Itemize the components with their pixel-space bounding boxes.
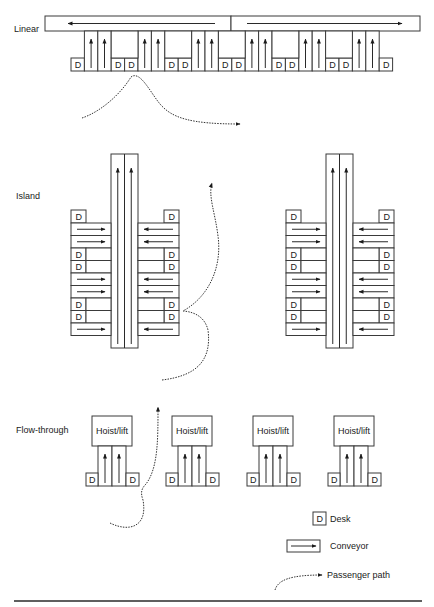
island-desk-left: D (71, 298, 86, 311)
hoist-lift-box: Hoist/lift (334, 416, 374, 446)
desk-label: D (169, 262, 176, 272)
island-desk-right: D (164, 298, 179, 311)
island-gap (86, 261, 111, 274)
linear-layout: DDDDDDDDDDDD (45, 16, 420, 71)
island-desk-left: D (71, 311, 86, 324)
island-desk-left: D (71, 248, 86, 261)
flow-desk-left: D (166, 473, 178, 486)
desk-label: D (169, 300, 176, 310)
linear-desk: D (285, 58, 298, 71)
legend-passenger-path-icon (275, 575, 322, 590)
island-desk-right: D (164, 210, 179, 223)
desk-label: D (75, 60, 82, 70)
desk-label: D (291, 250, 298, 260)
island-desk-right: D (164, 248, 179, 261)
linear-desk: D (379, 58, 392, 71)
desk-label: D (169, 312, 176, 322)
hoist-lift-label: Hoist/lift (96, 426, 129, 436)
island-desk-right: D (379, 261, 394, 274)
flow-desk-right: D (287, 473, 300, 486)
linear-desk: D (71, 58, 84, 71)
linear-desk: D (165, 58, 178, 71)
desk-label: D (236, 60, 243, 70)
island-gap (86, 298, 111, 311)
hoist-lift-box: Hoist/lift (172, 416, 212, 446)
island-gap (301, 248, 326, 261)
island-gap (353, 311, 379, 324)
island-desk-right: D (379, 248, 394, 261)
island-gap (301, 311, 326, 324)
desk-label: D (210, 475, 217, 485)
island-gap (138, 311, 164, 324)
airport-checkin-layout-diagram: Linear Island Flow-through DDDDDDDDDDDD … (0, 0, 434, 607)
desk-label: D (76, 212, 83, 222)
desk-label: D (372, 475, 379, 485)
linear-desk: D (339, 58, 352, 71)
flow-through-unit-3: Hoist/liftDD (247, 416, 300, 486)
island-gap (138, 298, 164, 311)
island-layout-1: DDDDDDDDDD (71, 154, 179, 348)
legend-passenger-path: Passenger path (275, 570, 390, 590)
legend-conveyor: Conveyor (287, 540, 369, 552)
desk-label: D (89, 475, 96, 485)
hoist-lift-box: Hoist/lift (253, 416, 293, 446)
desk-label: D (331, 475, 338, 485)
desk-recess (111, 31, 138, 58)
desk-label: D (384, 300, 391, 310)
desk-recess (165, 31, 192, 58)
island-desk-right: D (379, 210, 394, 223)
desk-label: D (291, 212, 298, 222)
legend-desk-label: Desk (330, 514, 351, 524)
desk-recess (326, 31, 353, 58)
island-desk-left: D (286, 248, 301, 261)
flow-through-unit-4: Hoist/liftDD (328, 416, 381, 486)
hoist-lift-box: Hoist/lift (92, 416, 132, 446)
island-desk-right: D (379, 298, 394, 311)
desk-recess (218, 31, 245, 58)
desk-label: D (169, 60, 176, 70)
desk-label: D (250, 475, 257, 485)
island-desk-right: D (379, 311, 394, 324)
island-gap (301, 261, 326, 274)
island-desk-right: D (164, 261, 179, 274)
island-desk-left: D (286, 210, 301, 223)
desk-label: D (169, 250, 176, 260)
island-desk-left: D (286, 298, 301, 311)
flow-through-unit-1: Hoist/liftDD (86, 416, 139, 486)
desk-label: D (222, 60, 229, 70)
desk-label: D (384, 312, 391, 322)
section-label-linear: Linear (14, 24, 39, 34)
hoist-lift-label: Hoist/lift (257, 426, 290, 436)
desk-label: D (343, 60, 350, 70)
hoist-lift-label: Hoist/lift (338, 426, 371, 436)
island-desk-left: D (286, 261, 301, 274)
desk-label: D (291, 262, 298, 272)
desk-label: D (76, 312, 83, 322)
linear-desk: D (326, 58, 339, 71)
linear-desk: D (178, 58, 191, 71)
desk-label: D (383, 60, 390, 70)
island-gap (353, 261, 379, 274)
flow-desk-left: D (247, 473, 259, 486)
island-gap (86, 311, 111, 324)
desk-label: D (169, 475, 176, 485)
desk-label: D (384, 212, 391, 222)
desk-label: D (291, 300, 298, 310)
desk-label: D (76, 250, 83, 260)
flow-desk-right: D (368, 473, 381, 486)
island-desk-right: D (164, 311, 179, 324)
desk-label: D (76, 262, 83, 272)
flow-desk-left: D (328, 473, 340, 486)
desk-label: D (384, 250, 391, 260)
hoist-lift-label: Hoist/lift (176, 426, 209, 436)
island-desk-left: D (286, 311, 301, 324)
island-layout-2: DDDDDDDDDD (286, 154, 394, 348)
legend-desk: D Desk (313, 512, 351, 525)
legend-desk-symbol-label: D (317, 514, 324, 524)
passenger-path-linear (82, 76, 240, 124)
desk-label: D (276, 60, 283, 70)
desk-label: D (169, 212, 176, 222)
island-gap (301, 298, 326, 311)
linear-desk: D (111, 58, 124, 71)
desk-recess (272, 31, 299, 58)
